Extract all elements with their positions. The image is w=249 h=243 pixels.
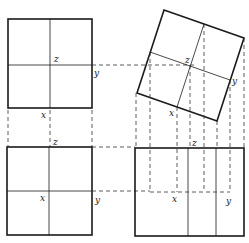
- label-x: x: [40, 193, 45, 203]
- label-x: x: [172, 194, 177, 204]
- rotated-square: z y x: [137, 10, 244, 121]
- left-projection-lines: [8, 110, 92, 147]
- label-y: y: [225, 196, 232, 206]
- label-z: z: [52, 137, 58, 147]
- label-y: y: [231, 76, 238, 86]
- label-x: x: [41, 110, 46, 120]
- label-z: z: [184, 55, 190, 65]
- bottom-left-square: z x y: [7, 137, 101, 235]
- top-left-square: z y x: [8, 19, 100, 120]
- label-z: z: [191, 138, 197, 148]
- label-y: y: [94, 195, 101, 205]
- label-y: y: [93, 68, 100, 78]
- bottom-right-square: z x y: [135, 138, 244, 236]
- label-z: z: [53, 54, 59, 64]
- right-projection-lines: [136, 24, 244, 192]
- label-x: x: [169, 108, 174, 118]
- projection-diagram: z y x z y x z x y: [0, 0, 249, 243]
